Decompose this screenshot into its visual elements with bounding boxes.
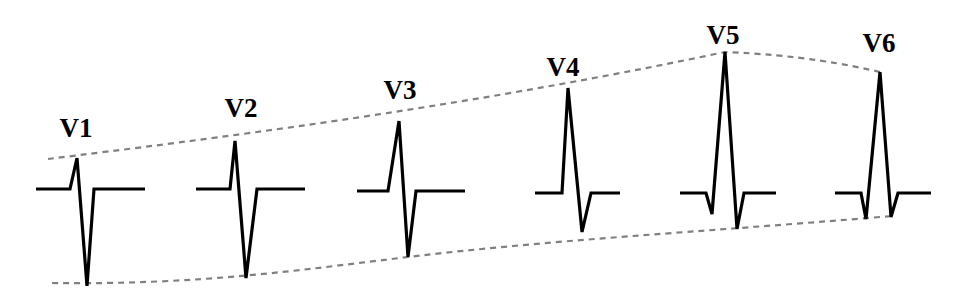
ecg-trace-v6 xyxy=(835,72,931,219)
lead-label-v5: V5 xyxy=(707,20,740,50)
lead-label-v2: V2 xyxy=(225,93,258,123)
lead-v1: V1 xyxy=(36,113,145,286)
lead-v2: V2 xyxy=(196,93,305,278)
s-wave-envelope xyxy=(52,216,895,283)
lead-label-v6: V6 xyxy=(863,28,896,58)
ecg-trace-v4 xyxy=(535,88,620,232)
lead-v4: V4 xyxy=(535,52,620,232)
r-wave-envelope xyxy=(48,52,880,159)
lead-v5: V5 xyxy=(680,20,776,229)
lead-label-v1: V1 xyxy=(60,113,93,143)
lead-label-v4: V4 xyxy=(547,52,580,82)
ecg-trace-v1 xyxy=(36,158,145,286)
ecg-trace-v3 xyxy=(357,121,465,257)
r-wave-progression-diagram: V1 V2 V3 V4 V5 V6 xyxy=(0,0,957,299)
ecg-trace-v2 xyxy=(196,141,305,278)
ecg-trace-v5 xyxy=(680,52,776,229)
lead-label-v3: V3 xyxy=(384,75,417,105)
lead-v6: V6 xyxy=(835,28,931,219)
lead-v3: V3 xyxy=(357,75,465,257)
